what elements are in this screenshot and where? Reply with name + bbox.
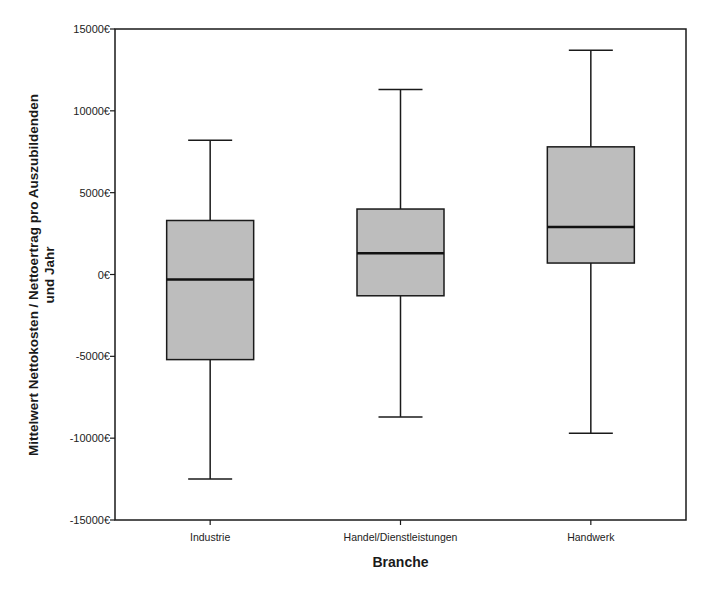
y-tick-label: 10000€ — [73, 105, 110, 117]
y-tick-label: 5000€ — [79, 187, 110, 199]
x-tick-label: Handel/Dienstleistungen — [344, 531, 458, 543]
y-tick-label: -10000€ — [70, 432, 110, 444]
y-tick-label: 0€ — [98, 269, 110, 281]
x-tick-label: Handwerk — [567, 531, 615, 543]
x-tick-label: Industrie — [190, 531, 230, 543]
x-axis-title: Branche — [115, 554, 686, 570]
y-axis-title-line-1: Mittelwert Nettokosten / Nettoertrag pro… — [26, 94, 42, 456]
y-axis-title-line-2: und Jahr — [42, 94, 58, 456]
plot-area: 15000€10000€5000€0€-5000€-10000€-15000€I… — [0, 0, 705, 591]
boxplot-chart: 15000€10000€5000€0€-5000€-10000€-15000€I… — [0, 0, 705, 591]
y-tick-label: -5000€ — [76, 350, 110, 362]
y-tick-label: 15000€ — [73, 23, 110, 35]
iqr-box — [167, 220, 254, 359]
y-tick-label: -15000€ — [70, 514, 110, 526]
y-axis-title: Mittelwert Nettokosten / Nettoertrag pro… — [12, 29, 72, 520]
iqr-box — [547, 147, 634, 263]
